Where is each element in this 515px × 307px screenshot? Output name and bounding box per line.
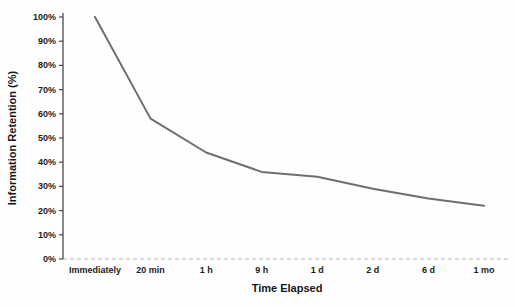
x-tick-label: 9 h bbox=[255, 265, 268, 275]
y-tick-label: 60% bbox=[38, 109, 56, 119]
y-tick-label: 90% bbox=[38, 36, 56, 46]
x-tick-label: 6 d bbox=[422, 265, 435, 275]
x-tick-label: 2 d bbox=[366, 265, 379, 275]
x-tick-label: 20 min bbox=[136, 265, 165, 275]
x-tick-label: 1 d bbox=[311, 265, 324, 275]
plot-area bbox=[0, 0, 515, 307]
x-tick-label: Immediately bbox=[69, 265, 121, 275]
y-tick-label: 10% bbox=[38, 230, 56, 240]
x-axis-title: Time Elapsed bbox=[252, 282, 323, 294]
y-tick-label: 40% bbox=[38, 157, 56, 167]
y-tick-label: 100% bbox=[33, 12, 56, 22]
y-tick-label: 30% bbox=[38, 181, 56, 191]
retention-curve-line bbox=[95, 17, 484, 206]
x-tick-label: 1 mo bbox=[473, 265, 494, 275]
y-tick-label: 0% bbox=[43, 254, 56, 264]
y-tick-label: 80% bbox=[38, 60, 56, 70]
y-tick-label: 50% bbox=[38, 133, 56, 143]
y-tick-label: 70% bbox=[38, 85, 56, 95]
forgetting-curve-chart: Information Retention (%) 0%10%20%30%40%… bbox=[0, 0, 515, 307]
y-tick-label: 20% bbox=[38, 206, 56, 216]
x-tick-label: 1 h bbox=[200, 265, 213, 275]
